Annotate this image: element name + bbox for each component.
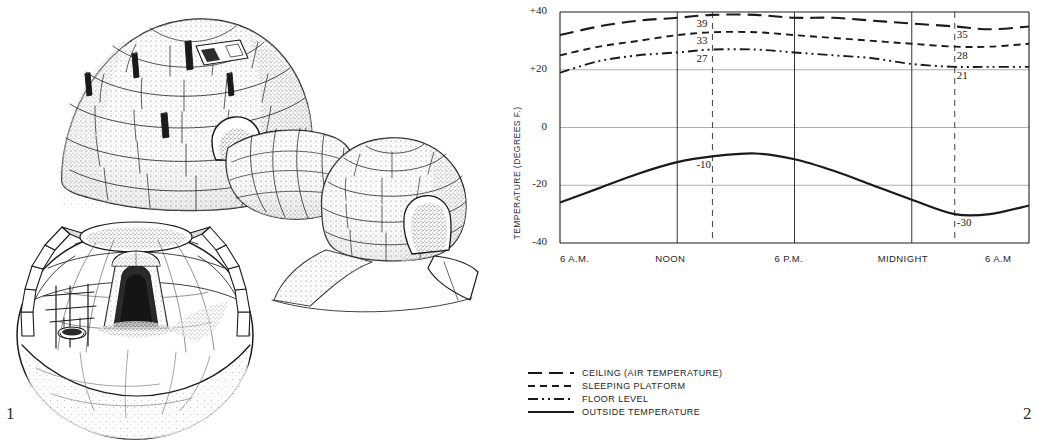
chart-y-tick-label: +20 (513, 62, 547, 74)
secondary-dome-doorway (404, 196, 451, 254)
chart-data-label: -30 (957, 216, 972, 228)
chart-legend: CEILING (AIR TEMPERATURE)SLEEPING PLATFO… (528, 366, 722, 418)
chart-data-label: 35 (957, 28, 968, 40)
figure-page: 1 2 TEMPERATURE (DEGREES F.) +40+200-20-… (0, 0, 1050, 445)
legend-item: CEILING (AIR TEMPERATURE) (528, 366, 722, 379)
igloo-cutaway-illustration (0, 0, 505, 445)
legend-item-label: OUTSIDE TEMPERATURE (582, 407, 700, 417)
legend-item-label: CEILING (AIR TEMPERATURE) (582, 368, 722, 378)
chart-data-label: 39 (696, 17, 707, 29)
chart-data-label: 27 (696, 52, 707, 64)
legend-line-swatch-solid (528, 407, 574, 417)
chart-x-tick-label: MIDNIGHT (878, 253, 928, 264)
figure-number-1: 1 (6, 404, 15, 424)
legend-line-swatch-short-dash (528, 381, 574, 391)
temperature-chart: TEMPERATURE (DEGREES F.) +40+200-20-406 … (495, 0, 1050, 445)
legend-line-swatch-dash-dot-dot (528, 394, 574, 404)
chart-y-tick-label: -20 (513, 177, 547, 189)
legend-item: SLEEPING PLATFORM (528, 379, 722, 392)
legend-item: OUTSIDE TEMPERATURE (528, 405, 722, 418)
legend-item: FLOOR LEVEL (528, 392, 722, 405)
chart-data-label: -10 (696, 158, 711, 170)
chart-x-tick-label: NOON (655, 253, 685, 264)
chart-x-tick-label: 6 A.M (985, 253, 1011, 264)
legend-item-label: SLEEPING PLATFORM (582, 381, 686, 391)
chart-x-tick-label: 6 P.M. (775, 253, 804, 264)
igloo-cutaway-section (17, 222, 253, 439)
legend-item-label: FLOOR LEVEL (582, 394, 648, 404)
chart-y-axis-title: TEMPERATURE (DEGREES F.) (512, 93, 522, 253)
chart-data-label: 33 (696, 34, 707, 46)
chart-y-tick-label: +40 (513, 4, 547, 16)
chart-x-tick-label: 6 A.M. (560, 253, 589, 264)
chart-y-tick-label: -40 (513, 235, 547, 247)
legend-line-swatch-long-dash (528, 368, 574, 378)
chart-y-tick-label: 0 (513, 120, 547, 132)
chart-data-label: 28 (957, 49, 968, 61)
chart-data-label: 21 (957, 69, 968, 81)
